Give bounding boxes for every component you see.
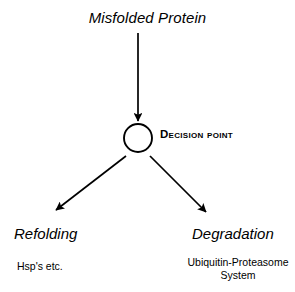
decision-point-label: Decision point — [160, 128, 233, 141]
misfolded-protein-label: Misfolded Protein — [0, 10, 295, 27]
decision-point-node — [124, 124, 152, 152]
degradation-label: Degradation — [192, 226, 274, 243]
degradation-caption: Ubiquitin-Proteasome System — [182, 256, 294, 282]
diagram-canvas — [0, 0, 295, 292]
arrow-decision-to-degradation — [150, 156, 206, 212]
arrow-decision-to-refolding — [56, 156, 126, 210]
refolding-caption: Hsp's etc. — [17, 261, 63, 273]
misfolded-protein-flow-diagram: Misfolded Protein Decision point Refoldi… — [0, 0, 295, 292]
refolding-label: Refolding — [14, 226, 77, 243]
